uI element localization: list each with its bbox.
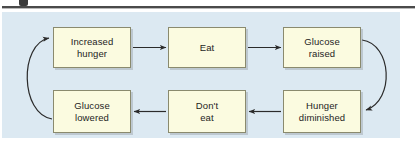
node-increased-hunger-line2: hunger: [71, 48, 114, 60]
node-glucose-raised-line2: raised: [304, 48, 340, 60]
node-dont-eat-line2: eat: [196, 112, 218, 124]
edge-glucose-lowered-to-increased-hunger: [27, 38, 52, 119]
node-hunger-diminished-line2: diminished: [299, 112, 345, 124]
node-glucose-lowered-line2: lowered: [74, 112, 110, 124]
node-hunger-diminished-line1: Hunger: [299, 100, 345, 112]
node-hunger-diminished: Hunger diminished: [283, 90, 361, 133]
node-glucose-raised: Glucose raised: [283, 27, 361, 68]
figure-canvas: Increased hunger Eat Glucose raised Hung…: [0, 0, 417, 147]
node-increased-hunger: Increased hunger: [53, 27, 131, 68]
node-glucose-raised-line1: Glucose: [304, 36, 340, 48]
node-dont-eat-line1: Don't: [196, 100, 218, 112]
node-eat: Eat: [168, 27, 246, 68]
node-dont-eat: Don't eat: [168, 90, 246, 133]
node-glucose-lowered-line1: Glucose: [74, 100, 110, 112]
node-glucose-lowered: Glucose lowered: [53, 90, 131, 133]
edge-glucose-raised-to-hunger-diminished: [362, 40, 386, 110]
node-increased-hunger-line1: Increased: [71, 36, 114, 48]
node-eat-line1: Eat: [200, 42, 215, 54]
